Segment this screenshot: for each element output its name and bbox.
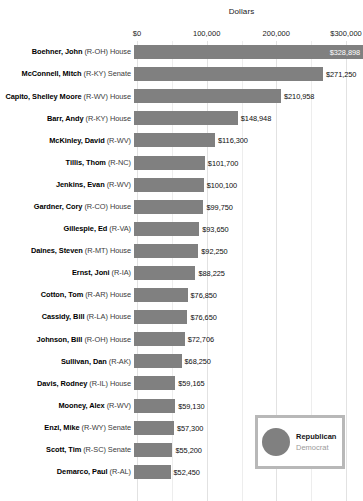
legislator-party-chamber: (R-WV) bbox=[107, 180, 131, 189]
legislator-name: Demarco, Paul bbox=[57, 467, 108, 476]
bar-row[interactable]: Jenkins, Evan (R-WV)$100,100 bbox=[0, 174, 354, 196]
bar-value-label: $210,958 bbox=[284, 92, 314, 101]
bar-row[interactable]: Cotton, Tom (R-AR) House$76,850 bbox=[0, 284, 354, 306]
legend-labels: Republican Democrat bbox=[296, 433, 336, 452]
bar-category-label: McConnell, Mitch (R-KY) Senate bbox=[0, 70, 134, 77]
bar-value-label: $116,300 bbox=[218, 136, 248, 145]
bar[interactable] bbox=[134, 443, 172, 457]
bar[interactable] bbox=[134, 45, 363, 59]
bar-track: $271,250 bbox=[134, 63, 354, 85]
bar-track: $68,250 bbox=[134, 350, 354, 372]
bar-value-label: $92,250 bbox=[201, 246, 227, 255]
legend-item-republican[interactable]: Republican bbox=[296, 433, 336, 441]
bar-category-label: Gardner, Cory (R-CO) House bbox=[0, 203, 134, 210]
bar-category-label: Barr, Andy (R-KY) House bbox=[0, 115, 134, 122]
x-tick-label: $0 bbox=[133, 29, 141, 38]
legislator-name: Davis, Rodney bbox=[37, 379, 87, 388]
bar[interactable] bbox=[134, 399, 175, 413]
bar-category-label: Ernst, Joni (R-IA) bbox=[0, 269, 134, 276]
bar-row[interactable]: Boehner, John (R-OH) House$328,898 bbox=[0, 41, 354, 63]
bar-row[interactable]: Gardner, Cory (R-CO) House$99,750 bbox=[0, 196, 354, 218]
bar-track: $116,300 bbox=[134, 129, 354, 151]
bar-row[interactable]: Mooney, Alex (R-WV)$59,130 bbox=[0, 395, 354, 417]
legislator-party-chamber: (R-OH) House bbox=[84, 47, 131, 56]
legislator-party-chamber: (R-OH) House bbox=[84, 335, 131, 344]
legislator-party-chamber: (R-SC) Senate bbox=[83, 445, 131, 454]
bar[interactable] bbox=[134, 156, 205, 170]
legislator-party-chamber: (R-KY) Senate bbox=[84, 69, 131, 78]
bar-row[interactable]: Johnson, Bill (R-OH) House$72,706 bbox=[0, 328, 354, 350]
bar-row[interactable]: Barr, Andy (R-KY) House$148,948 bbox=[0, 107, 354, 129]
bar-row[interactable]: Davis, Rodney (R-IL) House$59,165 bbox=[0, 372, 354, 394]
bar-track: $93,650 bbox=[134, 218, 354, 240]
bar-row[interactable]: Capito, Shelley Moore (R-WV) House$210,9… bbox=[0, 85, 354, 107]
legend-item-democrat[interactable]: Democrat bbox=[296, 444, 336, 452]
bar[interactable] bbox=[134, 67, 323, 81]
bar[interactable] bbox=[134, 266, 195, 280]
bar-category-label: Capito, Shelley Moore (R-WV) House bbox=[0, 93, 134, 100]
bar[interactable] bbox=[134, 465, 171, 479]
legislator-name: Barr, Andy bbox=[47, 114, 84, 123]
axis-title: Dollars bbox=[137, 7, 346, 16]
legislator-party-chamber: (R-VA) bbox=[109, 224, 131, 233]
bar[interactable] bbox=[134, 244, 198, 258]
bar-value-label: $88,225 bbox=[198, 268, 224, 277]
legislator-name: Boehner, John bbox=[32, 47, 83, 56]
bar-row[interactable]: Tillis, Thom (R-NC)$101,700 bbox=[0, 151, 354, 173]
bar-row[interactable]: McConnell, Mitch (R-KY) Senate$271,250 bbox=[0, 63, 354, 85]
bar[interactable] bbox=[134, 200, 203, 214]
bar-category-label: McKinley, David (R-WV) bbox=[0, 137, 134, 144]
x-tick-label: 200,000 bbox=[263, 29, 290, 38]
bar-category-label: Sullivan, Dan (R-AK) bbox=[0, 358, 134, 365]
bar-row[interactable]: Sullivan, Dan (R-AK)$68,250 bbox=[0, 350, 354, 372]
bar[interactable] bbox=[134, 111, 238, 125]
bar-category-label: Boehner, John (R-OH) House bbox=[0, 48, 134, 55]
bar[interactable] bbox=[134, 310, 187, 324]
legislator-name: Johnson, Bill bbox=[37, 335, 83, 344]
bar[interactable] bbox=[134, 354, 182, 368]
bar[interactable] bbox=[134, 332, 185, 346]
bar-row[interactable]: Gillespie, Ed (R-VA)$93,650 bbox=[0, 218, 354, 240]
bar-track: $99,750 bbox=[134, 196, 354, 218]
bar-value-label: $271,250 bbox=[326, 70, 356, 79]
bar-track: $76,650 bbox=[134, 306, 354, 328]
bar-category-label: Johnson, Bill (R-OH) House bbox=[0, 336, 134, 343]
bar-row[interactable]: Cassidy, Bill (R-LA) House$76,650 bbox=[0, 306, 354, 328]
legislator-party-chamber: (R-IA) bbox=[112, 268, 131, 277]
legislator-name: Sullivan, Dan bbox=[61, 357, 107, 366]
bar-value-label: $57,300 bbox=[177, 423, 203, 432]
bar[interactable] bbox=[134, 133, 215, 147]
bar-track: $76,850 bbox=[134, 284, 354, 306]
bar[interactable] bbox=[134, 376, 175, 390]
bar-value-label: $72,706 bbox=[188, 335, 214, 344]
bar-track: $101,700 bbox=[134, 151, 354, 173]
bar[interactable] bbox=[134, 288, 188, 302]
legislator-name: Cassidy, Bill bbox=[42, 312, 85, 321]
legislator-party-chamber: (R-NC) bbox=[108, 158, 131, 167]
legislator-party-chamber: (R-AL) bbox=[110, 467, 131, 476]
bar[interactable] bbox=[134, 421, 174, 435]
bar-row[interactable]: Daines, Steven (R-MT) House$92,250 bbox=[0, 240, 354, 262]
legislator-name: McConnell, Mitch bbox=[22, 69, 82, 78]
bar-value-label: $100,100 bbox=[207, 180, 237, 189]
bar[interactable] bbox=[134, 222, 199, 236]
bar-category-label: Tillis, Thom (R-NC) bbox=[0, 159, 134, 166]
bar[interactable] bbox=[134, 89, 281, 103]
bar-track: $59,165 bbox=[134, 372, 354, 394]
bar-row[interactable]: McKinley, David (R-WV)$116,300 bbox=[0, 129, 354, 151]
bar-value-label: $76,650 bbox=[190, 313, 216, 322]
bar-track: $88,225 bbox=[134, 262, 354, 284]
bar-value-label: $55,200 bbox=[175, 445, 201, 454]
bar-category-label: Demarco, Paul (R-AL) bbox=[0, 468, 134, 475]
legislator-name: Cotton, Tom bbox=[41, 290, 83, 299]
legislator-party-chamber: (R-WY) Senate bbox=[82, 423, 131, 432]
bar-value-label: $148,948 bbox=[241, 114, 271, 123]
bar-track: $59,130 bbox=[134, 395, 354, 417]
bar-row[interactable]: Ernst, Joni (R-IA)$88,225 bbox=[0, 262, 354, 284]
bar-category-label: Enzi, Mike (R-WY) Senate bbox=[0, 424, 134, 431]
bar[interactable] bbox=[134, 178, 204, 192]
x-axis-tick-labels: $0100,000200,000$300,000 bbox=[0, 29, 354, 41]
legislator-name: Gardner, Cory bbox=[34, 202, 83, 211]
bar-track: $210,958 bbox=[134, 85, 354, 107]
